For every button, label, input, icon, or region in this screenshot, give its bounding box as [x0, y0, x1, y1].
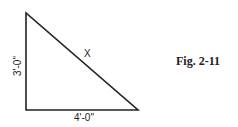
right-triangle — [26, 13, 138, 110]
horizontal-side-label: 4'-0" — [74, 112, 94, 123]
vertical-side-label: 3'-0" — [12, 56, 23, 76]
hypotenuse-label: X — [84, 48, 91, 59]
figure-caption: Fig. 2-11 — [176, 54, 220, 69]
